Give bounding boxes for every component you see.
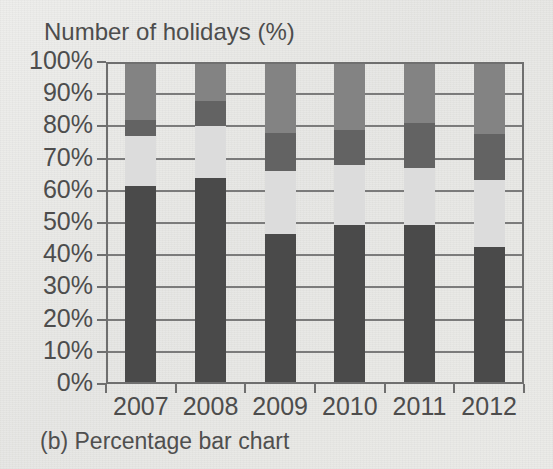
x-axis-tick-label: 2012 <box>449 392 529 421</box>
x-axis-tick-label: 2008 <box>171 392 251 421</box>
figure-caption: (b) Percentage bar chart <box>40 428 289 455</box>
x-axis-tick-label: 2007 <box>101 392 181 421</box>
figure-scan: Number of holidays (%) 0%10%20%30%40%50%… <box>0 0 553 469</box>
x-axis-tick-label: 2009 <box>240 392 320 421</box>
x-axis-tick-label: 2010 <box>310 392 390 421</box>
x-axis-labels: 200720082009201020112012 <box>0 0 553 469</box>
x-axis-tick-label: 2011 <box>380 392 460 421</box>
